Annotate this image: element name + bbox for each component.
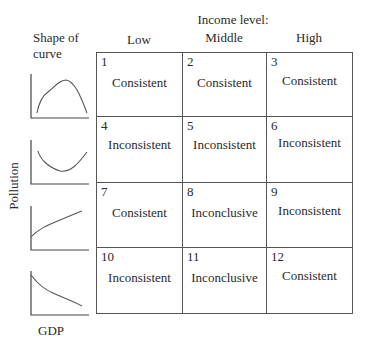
cell-verdict: Inconsistent: [183, 137, 266, 153]
cell-number: 11: [187, 249, 200, 265]
gdp-axis-label: GDP: [38, 323, 64, 339]
matrix-cell-5: 5Inconsistent: [183, 117, 267, 183]
income-level-label: Income level:: [183, 12, 283, 28]
matrix-cell-11: 11Inconclusive: [183, 248, 267, 313]
consistency-matrix: 1Consistent 2Consistent 3Consistent 4Inc…: [96, 52, 353, 314]
cell-verdict: Inconclusive: [183, 205, 266, 221]
matrix-cell-4: 4Inconsistent: [97, 117, 183, 183]
inverted-u-curve-icon: [28, 72, 92, 122]
decreasing-curve-icon: [28, 269, 92, 319]
cell-number: 4: [101, 118, 108, 134]
cell-verdict: Consistent: [97, 75, 182, 91]
cell-number: 9: [271, 184, 278, 200]
matrix-cell-10: 10Inconsistent: [97, 248, 183, 313]
cell-number: 1: [101, 54, 108, 70]
matrix-cell-7: 7Consistent: [97, 183, 183, 248]
cell-number: 8: [187, 184, 194, 200]
cell-verdict: Consistent: [183, 75, 266, 91]
cell-verdict: Inconsistent: [97, 137, 182, 153]
cell-number: 6: [271, 118, 278, 134]
cell-verdict: Inconsistent: [267, 203, 352, 219]
cell-number: 12: [271, 249, 284, 265]
matrix-cell-6: 6Inconsistent: [267, 117, 352, 183]
cell-number: 10: [101, 249, 114, 265]
matrix-cell-12: 12Consistent: [267, 248, 352, 313]
cell-verdict: Consistent: [267, 268, 352, 284]
column-header-middle: Middle: [182, 30, 266, 46]
matrix-cell-8: 8Inconclusive: [183, 183, 267, 248]
cell-number: 5: [187, 118, 194, 134]
cell-verdict: Inconsistent: [267, 135, 352, 151]
matrix-cell-9: 9Inconsistent: [267, 183, 352, 248]
matrix-cell-1: 1Consistent: [97, 53, 183, 117]
matrix-cell-3: 3Consistent: [267, 53, 352, 117]
shape-label-line2: curve: [33, 46, 79, 62]
cell-number: 7: [101, 184, 108, 200]
pollution-axis-label: Pollution: [6, 162, 22, 210]
u-shaped-curve-icon: [28, 138, 92, 188]
increasing-curve-icon: [28, 204, 92, 254]
shape-label-line1: Shape of: [33, 30, 79, 46]
column-header-low: Low: [96, 32, 182, 48]
cell-verdict: Consistent: [267, 73, 352, 89]
cell-number: 3: [271, 54, 278, 70]
shape-of-curve-label: Shape of curve: [33, 30, 79, 62]
cell-verdict: Inconsistent: [97, 270, 182, 286]
cell-number: 2: [187, 54, 194, 70]
matrix-cell-2: 2Consistent: [183, 53, 267, 117]
cell-verdict: Consistent: [97, 205, 182, 221]
column-header-high: High: [266, 30, 352, 46]
cell-verdict: Inconclusive: [183, 270, 266, 286]
